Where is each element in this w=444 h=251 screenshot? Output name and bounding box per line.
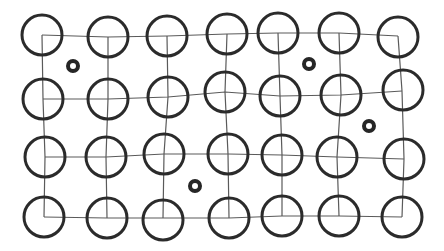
lattice-diagram: [0, 0, 444, 251]
